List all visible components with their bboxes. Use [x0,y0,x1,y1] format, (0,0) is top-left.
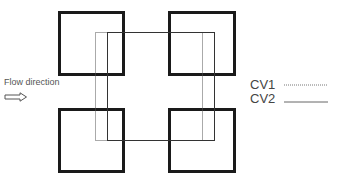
control-volume-lines [0,0,343,181]
cv2-rectangle [108,33,215,141]
cv1-rectangle [96,33,203,141]
legend-label-cv2: CV2 [250,92,275,105]
flow-arrow-icon [4,92,28,102]
legend-line-cv2 [284,100,334,104]
legend-label-cv1: CV1 [250,78,275,91]
flow-direction-label: Flow direction [4,77,60,87]
legend-line-cv1 [284,83,334,87]
